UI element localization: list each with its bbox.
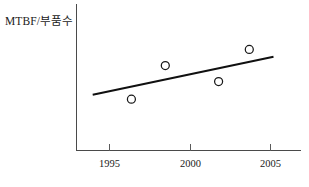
x-axis-ticks xyxy=(110,144,271,151)
data-point-marker xyxy=(215,78,223,86)
data-point-marker xyxy=(245,45,253,53)
tick-label-2005: 2005 xyxy=(260,158,281,169)
data-point-marker xyxy=(127,95,135,103)
x-axis-tick-labels: 1995 2000 2005 xyxy=(99,158,281,169)
tick-label-2000: 2000 xyxy=(180,158,201,169)
chart-screenshot: MTBF/부품수 1995 2000 2005 xyxy=(0,0,309,187)
trend-line xyxy=(93,57,274,95)
tick-label-1995: 1995 xyxy=(99,158,120,169)
scatter-plot: 1995 2000 2005 xyxy=(0,0,309,187)
data-point-marker xyxy=(161,62,169,70)
